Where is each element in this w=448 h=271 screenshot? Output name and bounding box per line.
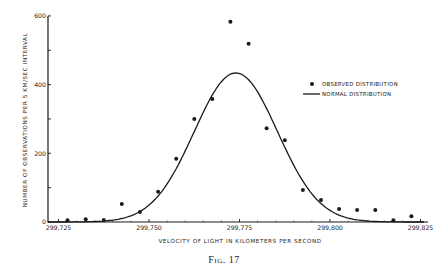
figure-caption: Fig. 17 bbox=[0, 254, 448, 265]
observed-point bbox=[138, 210, 142, 214]
observed-point bbox=[265, 126, 269, 130]
observed-point bbox=[84, 217, 88, 221]
observed-points bbox=[66, 20, 414, 223]
observed-point bbox=[409, 214, 413, 218]
x-tick-label: 299,775 bbox=[227, 224, 253, 231]
x-tick-label: 299,750 bbox=[136, 224, 162, 231]
y-axis-title: NUMBER OF OBSERVATIONS PER 5 KM/SEC INTE… bbox=[22, 33, 28, 208]
legend-observed-marker bbox=[310, 82, 314, 86]
y-axis: 0200400600 bbox=[34, 12, 51, 225]
x-tick-label: 299,725 bbox=[46, 224, 72, 231]
observed-point bbox=[210, 97, 214, 101]
observed-point bbox=[228, 20, 232, 24]
y-tick-label: 200 bbox=[34, 150, 46, 157]
x-tick-label: 299,825 bbox=[408, 224, 434, 231]
observed-point bbox=[319, 198, 323, 202]
legend: OBSERVED DISTRIBUTION NORMAL DISTRIBUTIO… bbox=[303, 81, 398, 97]
observed-point bbox=[174, 157, 178, 161]
legend-normal-label: NORMAL DISTRIBUTION bbox=[322, 91, 391, 97]
observed-point bbox=[156, 190, 160, 194]
observed-point bbox=[102, 218, 106, 222]
observed-point bbox=[373, 208, 377, 212]
observed-point bbox=[301, 188, 305, 192]
observed-point bbox=[391, 218, 395, 222]
observed-point bbox=[120, 202, 124, 206]
x-tick-label: 299,800 bbox=[317, 224, 343, 231]
x-axis-title: VELOCITY OF LIGHT IN KILOMETERS PER SECO… bbox=[158, 238, 321, 244]
y-tick-label: 400 bbox=[34, 81, 46, 88]
observed-point bbox=[283, 138, 287, 142]
observed-point bbox=[66, 218, 70, 222]
y-tick-label: 600 bbox=[34, 12, 46, 19]
observed-point bbox=[355, 208, 359, 212]
observed-point bbox=[192, 117, 196, 121]
observed-point bbox=[247, 42, 251, 46]
observed-point bbox=[337, 207, 341, 211]
legend-observed-label: OBSERVED DISTRIBUTION bbox=[322, 81, 398, 87]
chart: 0200400600 299,725299,750299,775299,8002… bbox=[0, 0, 448, 271]
